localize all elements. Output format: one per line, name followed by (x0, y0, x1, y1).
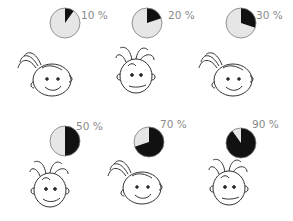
percent-label: 70 % (160, 118, 187, 130)
boy-face-icon (114, 42, 174, 104)
pie-chart-20 (131, 7, 163, 39)
girl-face-icon (195, 46, 265, 106)
percent-label: 30 % (256, 9, 283, 21)
percent-label: 90 % (252, 118, 279, 130)
panel-70: 70 % (100, 110, 198, 215)
panel-50: 50 % (0, 110, 98, 215)
pie-chart-10 (49, 7, 81, 39)
panel-30: 30 % (193, 0, 291, 105)
girl-face-icon (104, 154, 174, 214)
percent-label: 50 % (76, 120, 103, 132)
panel-20: 20 % (98, 0, 196, 105)
percent-label: 20 % (168, 9, 195, 21)
boy-face-icon (207, 154, 267, 216)
pie-chart-30 (225, 7, 257, 39)
panel-90: 90 % (193, 110, 291, 215)
panel-10: 10 % (0, 0, 98, 105)
girl-face-icon (14, 46, 84, 106)
boy-face-icon (28, 156, 88, 218)
